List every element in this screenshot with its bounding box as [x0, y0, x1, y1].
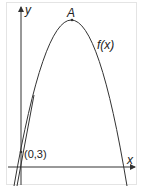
curve-label: f(x)	[97, 38, 114, 52]
y-axis-label: y	[24, 3, 32, 17]
intercept-point	[20, 151, 23, 154]
intercept-label: (0,3)	[24, 148, 47, 160]
x-axis-label: x	[126, 153, 134, 167]
tangent-line	[17, 95, 34, 186]
vertex-label: A	[66, 6, 75, 20]
graph: y x A f(x) (0,3)	[0, 0, 148, 195]
